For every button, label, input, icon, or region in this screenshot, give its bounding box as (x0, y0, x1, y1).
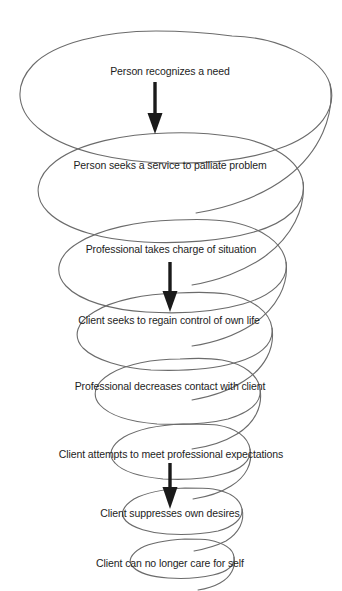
arrow-group (148, 82, 178, 509)
spiral-turn-1 (20, 31, 332, 163)
stage-label-client-can-no-longer-care-for-self: Client can no longer care for self (96, 557, 244, 569)
spiral-graphic (0, 0, 342, 591)
stage-label-professional-decreases-contact: Professional decreases contact with clie… (75, 380, 266, 392)
arrow-2 (163, 262, 178, 312)
stage-label-client-seeks-to-regain-control: Client seeks to regain control of own li… (78, 314, 259, 326)
stage-label-client-suppresses-own-desires: Client suppresses own desires (100, 507, 240, 519)
stage-label-person-recognizes-a-need: Person recognizes a need (110, 65, 230, 77)
arrow-3 (163, 463, 178, 509)
spiral-turn-2 (38, 133, 303, 243)
stage-label-professional-takes-charge: Professional takes charge of situation (86, 243, 257, 255)
stage-label-person-seeks-a-service: Person seeks a service to palliate probl… (73, 159, 266, 171)
spiral-descender-1 (196, 84, 331, 213)
stage-label-client-attempts-to-meet-expectations: Client attempts to meet professional exp… (59, 448, 283, 460)
spiral-diagram: Person recognizes a need Person seeks a … (0, 0, 342, 591)
arrow-1 (148, 82, 163, 134)
